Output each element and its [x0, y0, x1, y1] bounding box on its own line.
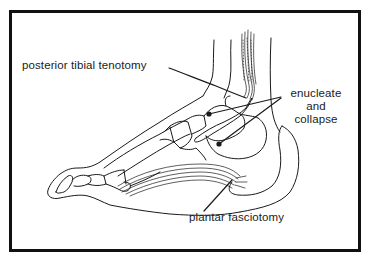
label-posterior-tibial-tenotomy: posterior tibial tenotomy [22, 59, 147, 72]
leader-lines [169, 68, 281, 211]
calcaneus-target-dot [216, 141, 221, 146]
label-plantar-fasciotomy: plantar fasciotomy [189, 211, 284, 224]
plantar-fascia [118, 164, 247, 196]
label-enucleate-line2: and [284, 100, 348, 113]
talus-target-dot [206, 111, 211, 116]
toe-bones [56, 170, 131, 193]
leader-posterior-tibial [169, 68, 246, 98]
talus-bone [204, 96, 245, 141]
foot-skin-outline [48, 96, 299, 215]
label-enucleate-line1: enucleate [284, 87, 348, 100]
calcaneus-bone [206, 114, 267, 159]
tendon-bundle [242, 30, 256, 100]
leader-plantar [204, 180, 232, 211]
label-enucleate-and-collapse: enucleate and collapse [284, 87, 348, 126]
foot-diagram [0, 0, 368, 261]
posterior-tibial-tendon [195, 98, 253, 142]
label-enucleate-line3: collapse [284, 113, 348, 126]
